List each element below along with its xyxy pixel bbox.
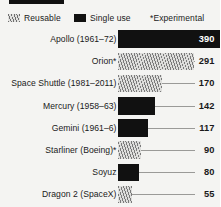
value-leader-line <box>139 172 195 173</box>
bar-row-label: Mercury (1958–63) <box>43 95 116 117</box>
bar-row-label: Starliner (Boeing)* <box>45 139 116 161</box>
bar-row-label: Dragon 2 (SpaceX) <box>42 183 116 205</box>
bar-value-label: 80 <box>204 161 215 183</box>
bar-row: Space Shuttle (1981–2011)170 <box>0 72 220 94</box>
bar-value-label: 117 <box>199 117 214 139</box>
bar-plot-area: 170 <box>118 72 221 94</box>
bar-rows: Apollo (1961–72)390Orion*291Space Shuttl… <box>0 28 220 206</box>
bar-row-label: Apollo (1961–72) <box>50 28 116 50</box>
bar-reusable <box>118 186 132 204</box>
bar-reusable <box>118 141 142 159</box>
legend-item-single-use: Single use <box>74 11 131 24</box>
bar-plot-area: 117 <box>118 117 221 139</box>
bar-row: Gemini (1961–6)117 <box>0 117 220 139</box>
bar-single-use <box>118 119 149 137</box>
bar-plot-area: 291 <box>118 50 221 72</box>
legend-label-single-use: Single use <box>90 13 131 23</box>
chart-legend: Reusable Single use *Experimental <box>0 11 220 24</box>
solid-swatch-icon <box>74 14 86 22</box>
hatch-swatch-icon <box>8 14 20 22</box>
value-leader-line <box>155 106 195 107</box>
bar-single-use <box>118 97 155 115</box>
bar-single-use <box>118 164 139 182</box>
bar-plot-area: 390 <box>118 28 221 50</box>
bar-value-label: 55 <box>204 183 215 205</box>
bar-chart: Reusable Single use *Experimental Apollo… <box>0 0 220 207</box>
bar-plot-area: 55 <box>118 183 221 205</box>
bar-row-label: Orion* <box>92 50 117 72</box>
bar-value-label: 142 <box>199 95 215 117</box>
bar-row-label: Space Shuttle (1981–2011) <box>11 72 116 94</box>
bar-row: Orion*291 <box>0 50 220 72</box>
bar-plot-area: 90 <box>118 139 221 161</box>
bar-value-label: 170 <box>199 72 215 94</box>
bar-plot-area: 142 <box>118 95 221 117</box>
bar-row: Mercury (1958–63)142 <box>0 95 220 117</box>
bar-value-label: 390 <box>199 28 215 50</box>
legend-label-reusable: Reusable <box>24 13 61 23</box>
value-leader-line <box>141 150 195 151</box>
bar-reusable <box>118 75 163 93</box>
bar-value-label: 90 <box>204 139 215 161</box>
bar-value-label: 291 <box>199 50 215 72</box>
legend-item-reusable: Reusable <box>8 11 61 24</box>
bar-row: Apollo (1961–72)390 <box>0 28 220 50</box>
value-leader-line <box>132 194 195 195</box>
legend-item-experimental: *Experimental <box>150 11 204 24</box>
value-leader-line <box>194 61 195 62</box>
bar-reusable <box>118 53 194 71</box>
legend-label-experimental: *Experimental <box>150 13 204 23</box>
value-leader-line <box>148 128 195 129</box>
title-rule <box>9 0 64 4</box>
bar-row: Starliner (Boeing)*90 <box>0 139 220 161</box>
bar-row-label: Soyuz <box>92 161 116 183</box>
bar-row: Dragon 2 (SpaceX)55 <box>0 183 220 205</box>
bar-row-label: Gemini (1961–6) <box>52 117 117 139</box>
bar-row: Soyuz80 <box>0 161 220 183</box>
value-leader-line <box>162 83 195 84</box>
bar-plot-area: 80 <box>118 161 221 183</box>
